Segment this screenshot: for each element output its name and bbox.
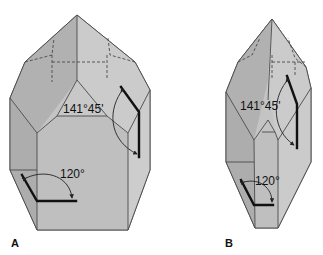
- crystal-diagram: 141°45' 120° A 141°45' 120°: [0, 0, 323, 255]
- crystal-a-interfacial-angle: 141°45': [63, 102, 103, 116]
- crystal-b: 141°45' 120° B: [225, 19, 311, 249]
- crystal-a: 141°45' 120° A: [10, 15, 150, 249]
- crystal-b-interfacial-angle: 141°45': [240, 99, 280, 113]
- crystal-a-prism-angle: 120°: [60, 167, 85, 181]
- crystal-b-prism-angle: 120°: [255, 174, 280, 188]
- panel-label-a: A: [11, 237, 19, 249]
- panel-label-b: B: [225, 237, 233, 249]
